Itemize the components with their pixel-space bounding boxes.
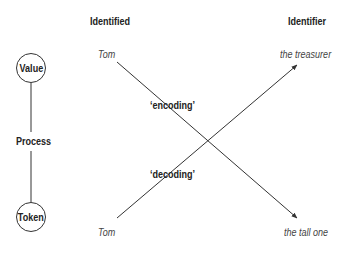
- bottom-identified-tom: Tom: [98, 226, 115, 238]
- value-node: Value: [16, 53, 46, 83]
- decoding-label: ‘decoding’: [150, 168, 195, 180]
- column-header-identified: Identified: [90, 15, 130, 27]
- token-node: Token: [16, 202, 46, 232]
- token-node-label: Token: [18, 211, 44, 223]
- diagram-lines: [0, 0, 341, 257]
- top-identified-tom: Tom: [98, 48, 115, 60]
- value-node-label: Value: [19, 62, 43, 74]
- top-identifier-treasurer: the treasurer: [280, 48, 331, 60]
- bottom-identifier-tall-one: the tall one: [284, 226, 328, 238]
- process-label: Process: [16, 135, 51, 147]
- column-header-identifier: Identifier: [288, 15, 326, 27]
- encoding-label: ‘encoding’: [150, 99, 195, 111]
